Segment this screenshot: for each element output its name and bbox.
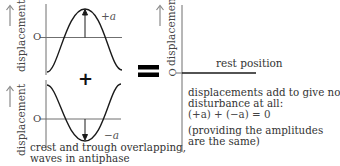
top-origin-label: O xyxy=(33,31,41,42)
bottom-displacement-label: displacement xyxy=(15,84,27,156)
plus-operator: + xyxy=(78,68,93,89)
top-displacement-label: displacement xyxy=(15,0,27,72)
result-displacement-label: displacement xyxy=(165,0,177,66)
minus-a-arrow xyxy=(83,119,88,140)
minus-a-label: −a xyxy=(104,129,119,141)
plus-a-arrow xyxy=(83,10,88,38)
note-equation: (+a) + (−a) = 0 xyxy=(188,109,340,120)
note-line-5: are the same) xyxy=(188,136,340,147)
up-arrow-icon xyxy=(7,6,14,27)
result-origin-label: O xyxy=(167,68,178,76)
bottom-origin-label: O xyxy=(33,113,41,124)
left-caption: crest and trough overlapping, waves in a… xyxy=(30,142,186,164)
up-arrow-icon xyxy=(7,87,14,108)
equals-sign xyxy=(138,65,159,77)
up-arrow-icon xyxy=(157,6,164,27)
plus-a-label: +a xyxy=(101,10,116,22)
rest-position-label: rest position xyxy=(216,57,283,69)
result-note: displacements add to give no disturbance… xyxy=(188,87,340,147)
caption-line-2: waves in antiphase xyxy=(30,153,186,164)
